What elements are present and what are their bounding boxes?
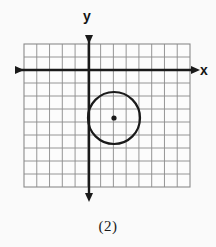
x-axis-label: x xyxy=(200,63,208,77)
figure-container: y x (2) xyxy=(0,0,216,247)
y-axis-label: y xyxy=(83,9,91,23)
coordinate-plane-graphic xyxy=(0,0,216,247)
figure-caption: (2) xyxy=(0,218,216,235)
grid-background xyxy=(24,44,190,187)
circle-center-point xyxy=(111,115,116,120)
